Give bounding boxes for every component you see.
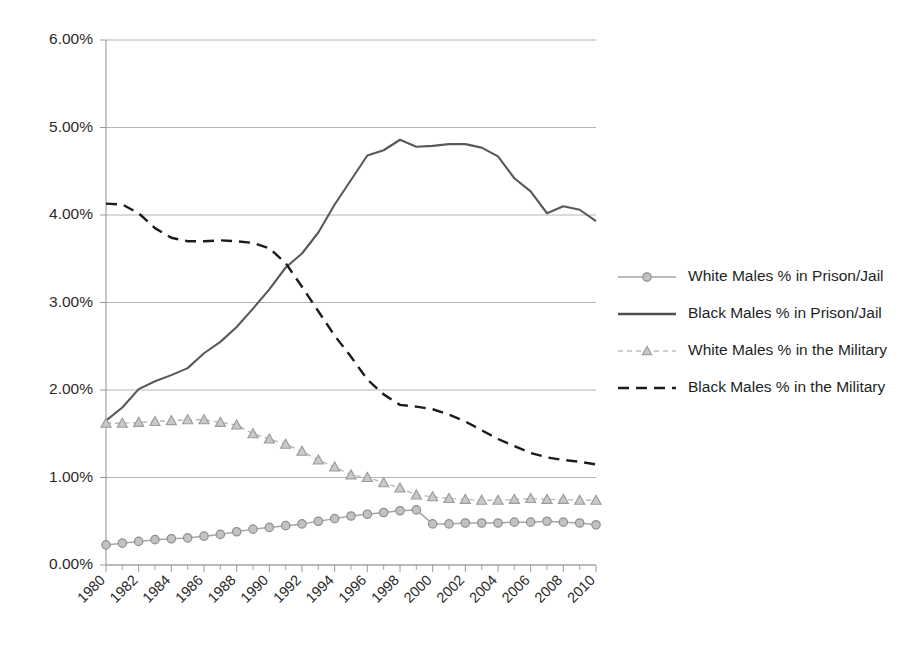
x-tick-label: 2008 [531,572,565,606]
x-axis [106,565,596,572]
x-tick-label: 2004 [466,572,500,606]
x-tick-label: 1990 [237,572,271,606]
x-tick-label: 1984 [139,572,173,606]
marker-white_military [166,416,176,425]
legend-label-black_prison: Black Males % in Prison/Jail [688,304,882,321]
marker-white_military [411,490,421,499]
marker-white_prison [347,512,355,520]
series-line-black_prison [106,140,596,421]
marker-white_military [297,446,307,455]
marker-white_prison [543,517,551,525]
y-tick-label: 6.00% [49,30,93,47]
marker-white_prison [575,519,583,527]
y-tick-label: 0.00% [49,555,93,572]
marker-white_prison [183,534,191,542]
legend-item-black_military[interactable]: Black Males % in the Military [618,378,886,395]
marker-white_prison [151,535,159,543]
line-chart: 0.00%1.00%2.00%3.00%4.00%5.00%6.00% 1980… [0,0,916,651]
legend-item-white_military[interactable]: White Males % in the Military [618,341,887,358]
x-tick-label: 2000 [401,572,435,606]
series-lines-group [106,140,596,545]
marker-white_military [379,478,389,487]
marker-white_prison [232,528,240,536]
marker-white_prison [216,530,224,538]
x-tick-label: 2006 [499,572,533,606]
y-tick-label: 3.00% [49,293,93,310]
legend-label-white_military: White Males % in the Military [688,341,887,358]
x-tick-label: 1982 [107,572,141,606]
marker-white_military [493,495,503,504]
marker-white_military [477,495,487,504]
marker-white_prison [494,519,502,527]
marker-white_military [346,470,356,479]
marker-white_military [330,462,340,471]
x-tick-label: 2002 [433,572,467,606]
marker-white_prison [445,520,453,528]
marker-white_prison [118,539,126,547]
x-tick-label: 1986 [172,572,206,606]
legend-marker-white_military [642,346,651,354]
marker-white_prison [363,510,371,518]
marker-white_prison [134,537,142,545]
legend-label-black_military: Black Males % in the Military [688,378,886,395]
y-tick-label: 5.00% [49,118,93,135]
x-axis-tick-labels: 1980198219841986198819901992199419961998… [74,572,598,606]
x-tick-label: 1996 [335,572,369,606]
x-tick-label: 1980 [74,572,108,606]
marker-white_prison [412,506,420,514]
marker-white_prison [265,523,273,531]
marker-white_prison [314,517,322,525]
x-tick-label: 1988 [205,572,239,606]
marker-white_prison [379,508,387,516]
gridlines-group [106,40,596,565]
x-tick-label: 1994 [303,572,337,606]
marker-white_prison [428,520,436,528]
legend-item-black_prison[interactable]: Black Males % in Prison/Jail [618,304,882,321]
marker-white_prison [167,535,175,543]
legend-marker-white_prison [643,273,651,281]
marker-white_prison [510,518,518,526]
series-line-black_military [106,204,596,465]
marker-white_prison [298,520,306,528]
y-tick-label: 1.00% [49,468,93,485]
marker-white_prison [592,521,600,529]
x-tick-label: 1998 [368,572,402,606]
y-axis [100,40,106,565]
marker-white_military [248,429,258,438]
y-axis-tick-labels: 0.00%1.00%2.00%3.00%4.00%5.00%6.00% [49,30,93,572]
series-line-white_military [106,420,596,501]
marker-white_prison [102,541,110,549]
marker-white_prison [330,514,338,522]
marker-white_prison [477,519,485,527]
legend-item-white_prison[interactable]: White Males % in Prison/Jail [618,267,884,284]
marker-white_military [591,495,601,504]
legend-label-white_prison: White Males % in Prison/Jail [688,267,884,284]
marker-white_prison [461,519,469,527]
marker-white_prison [281,521,289,529]
marker-white_military [313,455,323,464]
marker-white_military [395,483,405,492]
x-tick-label: 2010 [564,572,598,606]
series-markers-group [101,415,601,549]
y-tick-label: 2.00% [49,380,93,397]
y-tick-label: 4.00% [49,205,93,222]
marker-white_prison [559,518,567,526]
marker-white_prison [396,507,404,515]
chart-container: 0.00%1.00%2.00%3.00%4.00%5.00%6.00% 1980… [0,0,916,651]
marker-white_prison [526,518,534,526]
marker-white_prison [249,525,257,533]
x-tick-label: 1992 [270,572,304,606]
chart-legend: White Males % in Prison/JailBlack Males … [618,267,887,395]
marker-white_military [575,495,585,504]
marker-white_prison [200,532,208,540]
